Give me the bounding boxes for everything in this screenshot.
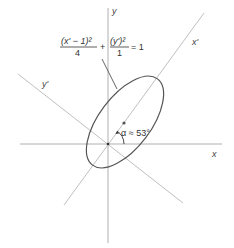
y-prime-axis-label: y' [41,79,49,89]
y-prime-axis [18,74,183,203]
angle-label: α ≈ 53° [121,128,150,138]
equation-term2-denominator: 1 [117,48,122,58]
x-axis-label: x [211,149,217,159]
equation-leader-line [102,59,117,89]
equation-plus: + [100,42,105,52]
x-prime-axis-label: x' [191,37,199,47]
diagram-canvas: y x x' y' (x' − 1)² 4 + (y')² 1 = 1 α ≈ … [0,0,234,248]
equation-equals: = 1 [131,42,144,52]
ellipse-equation: (x' − 1)² 4 + (y')² 1 = 1 [60,36,144,58]
equation-term2-numerator: (y')² [110,36,126,46]
origin-point [107,143,110,146]
y-axis-label: y [111,6,117,16]
equation-term1-denominator: 4 [75,48,80,58]
ellipse-center-point [122,121,125,124]
equation-term1-numerator: (x' − 1)² [61,36,92,46]
